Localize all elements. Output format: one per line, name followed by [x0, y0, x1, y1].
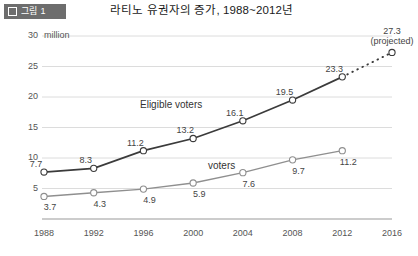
- data-point-label: 4.9: [127, 195, 171, 205]
- y-axis-tick-label: 15: [2, 123, 38, 132]
- x-axis-tick-label: 2000: [168, 229, 218, 238]
- data-point-label: 11.2: [113, 138, 157, 148]
- data-point-label: 7.6: [227, 179, 271, 189]
- data-point-marker: [41, 169, 47, 175]
- x-axis-tick-label: 2016: [367, 229, 417, 238]
- series-label-voters: voters: [208, 160, 235, 171]
- data-point-label: 13.2: [163, 125, 207, 135]
- chart-canvas: [0, 22, 403, 256]
- data-point-marker: [140, 186, 146, 192]
- projection-value: 27.3: [362, 26, 418, 36]
- series-lines: [44, 52, 392, 196]
- y-axis-tick-label: 30: [2, 31, 38, 40]
- page-title: 라티노 유권자의 증가, 1988~2012년: [0, 3, 403, 17]
- plot-area: 51015202530million 198819921996200020042…: [0, 22, 403, 256]
- data-point-marker: [289, 157, 295, 163]
- y-axis-unit-label: million: [44, 31, 70, 40]
- data-point-marker: [190, 135, 196, 141]
- data-point-label: 11.2: [326, 157, 370, 167]
- data-point-marker: [289, 97, 295, 103]
- data-point-marker: [240, 118, 246, 124]
- x-axis-tick-label: 2012: [317, 229, 367, 238]
- x-axis-tick-label: 1988: [19, 229, 69, 238]
- data-point-label: 9.7: [277, 166, 321, 176]
- x-axis-tick-label: 1996: [118, 229, 168, 238]
- data-point-marker: [41, 193, 47, 199]
- data-point-marker: [91, 165, 97, 171]
- data-point-label: 27.3(projected): [362, 26, 418, 46]
- x-axis-tick-label: 2004: [218, 229, 268, 238]
- data-point-label: 7.7: [14, 159, 58, 169]
- y-axis-tick-label: 5: [2, 184, 38, 193]
- data-point-label: 19.5: [263, 87, 307, 97]
- projection-note: (projected): [362, 36, 418, 46]
- data-point-label: 16.1: [213, 108, 257, 118]
- data-point-marker: [389, 49, 395, 55]
- data-point-marker: [240, 170, 246, 176]
- data-point-marker: [91, 190, 97, 196]
- x-axis-tick-label: 2008: [268, 229, 318, 238]
- data-point-label: 5.9: [177, 189, 221, 199]
- series-label-eligible-voters: Eligible voters: [140, 99, 202, 110]
- data-point-marker: [339, 148, 345, 154]
- data-point-label: 23.3: [312, 64, 356, 74]
- data-point-marker: [190, 180, 196, 186]
- x-axis-tick-label: 1992: [69, 229, 119, 238]
- data-point-label: 3.7: [28, 202, 72, 212]
- data-point-label: 4.3: [78, 199, 122, 209]
- data-point-marker: [339, 74, 345, 80]
- data-point-marker: [140, 148, 146, 154]
- data-point-label: 8.3: [64, 155, 108, 165]
- y-axis-tick-label: 25: [2, 62, 38, 71]
- y-axis-tick-label: 20: [2, 92, 38, 101]
